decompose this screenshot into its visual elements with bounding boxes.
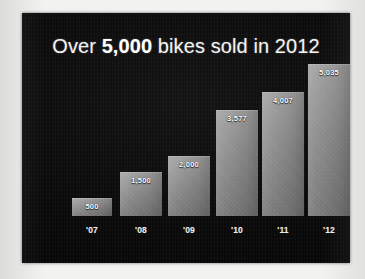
bar-group-2010: 3,577: [216, 110, 258, 216]
photo-frame: Over 5,000 bikes sold in 2012 500 '07 1,…: [0, 0, 365, 279]
x-axis-tick-2008: '08: [120, 225, 162, 235]
bar-2007: 500: [72, 198, 112, 216]
x-axis-tick-2009: '09: [168, 225, 210, 235]
bar-value-label: 4,007: [262, 96, 304, 105]
bar-2010: 3,577: [216, 110, 258, 216]
x-axis-tick-2010: '10: [216, 225, 258, 235]
x-axis-tick-2012: '12: [308, 225, 350, 235]
bar-value-label: 3,577: [216, 114, 258, 123]
presentation-slide: Over 5,000 bikes sold in 2012 500 '07 1,…: [22, 13, 350, 263]
bar-2008: 1,500: [120, 172, 162, 216]
bar-group-2009: 2,000: [168, 156, 210, 216]
bar-2011: 4,007: [262, 92, 304, 216]
bar-value-label: 2,000: [168, 160, 210, 169]
bar-value-label: 1,500: [120, 176, 162, 185]
x-axis-tick-2011: '11: [262, 225, 304, 235]
x-axis-tick-2007: '07: [72, 225, 112, 235]
title-prefix: Over: [52, 35, 101, 57]
title-suffix: bikes sold in 2012: [152, 35, 320, 57]
bar-2009: 2,000: [168, 156, 210, 216]
bar-2012: 5,035: [308, 64, 350, 216]
bar-group-2008: 1,500: [120, 172, 162, 216]
title-emphasis: 5,000: [102, 35, 153, 57]
page-title: Over 5,000 bikes sold in 2012: [22, 35, 350, 58]
bar-value-label: 5,035: [308, 68, 350, 77]
bar-value-label: 500: [72, 202, 112, 211]
bar-group-2012: 5,035: [308, 64, 350, 216]
bar-group-2007: 500: [72, 198, 112, 216]
bar-group-2011: 4,007: [262, 92, 304, 216]
